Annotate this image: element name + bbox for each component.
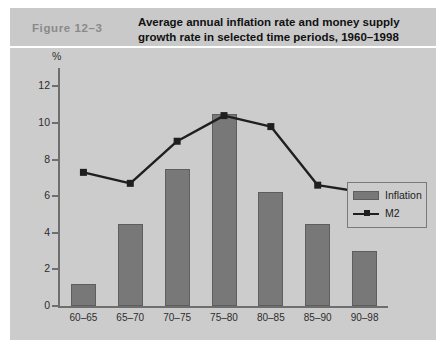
- line-marker: M2 70–75: 9%: [174, 138, 181, 145]
- figure-title-line-1: Average annual inflation rate and money …: [138, 16, 400, 28]
- x-axis-tick-label: 65–70: [107, 312, 154, 323]
- figure-title-line-2: growth rate in selected time periods, 19…: [138, 30, 433, 45]
- x-axis-tick-label: 90–98: [341, 312, 388, 323]
- chart-panel: % 024681012 M2 60–65: 7.3%M2 65–70: 6.7%…: [10, 48, 436, 340]
- figure-header-band: Figure 12–3 Average annual inflation rat…: [10, 8, 436, 48]
- legend-bar-swatch-icon: [353, 191, 379, 200]
- figure-container: Figure 12–3 Average annual inflation rat…: [0, 0, 446, 356]
- x-axis-tick-label: 85–90: [294, 312, 341, 323]
- legend-square-marker-icon: [364, 210, 370, 216]
- line-marker: M2 65–70: 6.7%: [127, 180, 134, 187]
- line-marker: M2 80–85: 9.8%: [267, 123, 274, 130]
- line-path-m2: [83, 116, 364, 193]
- figure-number: Figure 12–3: [32, 22, 103, 34]
- x-axis-tick-label: 70–75: [154, 312, 201, 323]
- legend-label-m2: M2: [385, 207, 400, 219]
- x-axis-tick-label: 80–85: [247, 312, 294, 323]
- figure-title: Average annual inflation rate and money …: [138, 15, 433, 44]
- plot-area: % 024681012 M2 60–65: 7.3%M2 65–70: 6.7%…: [10, 48, 436, 340]
- chart-legend: Inflation M2: [347, 182, 427, 228]
- line-marker: M2 75–80: 10.4%: [221, 112, 228, 119]
- line-marker: M2 60–65: 7.3%: [80, 169, 87, 176]
- x-axis-tick-label: 60–65: [60, 312, 107, 323]
- legend-label-inflation: Inflation: [385, 189, 422, 201]
- x-axis-tick-label: 75–80: [201, 312, 248, 323]
- line-marker: M2 85–90: 6.6%: [314, 182, 321, 189]
